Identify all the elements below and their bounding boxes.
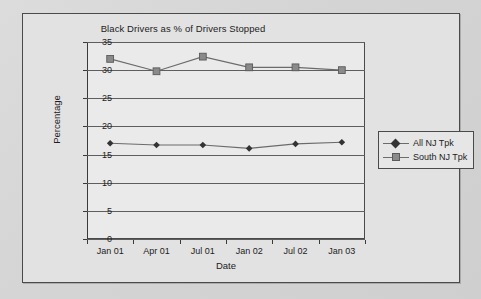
series-line-1 (110, 57, 342, 72)
data-point-0-3[interactable] (246, 145, 253, 152)
legend-label-0: All NJ Tpk (413, 138, 454, 148)
data-point-0-5[interactable] (339, 139, 346, 146)
x-tick-mark-5 (319, 240, 320, 244)
y-axis-title: Percentage (51, 60, 62, 180)
data-point-0-4[interactable] (292, 141, 299, 148)
x-tick-label-5: Jan 03 (312, 246, 372, 256)
data-point-1-3[interactable] (246, 64, 253, 71)
square-marker-icon (383, 151, 409, 163)
data-point-1-0[interactable] (107, 55, 114, 62)
chart-title: Black Drivers as % of Drivers Stopped (23, 23, 343, 34)
legend-label-1: South NJ Tpk (413, 152, 467, 162)
legend-item-1[interactable]: South NJ Tpk (383, 150, 467, 164)
series-line-0 (110, 142, 342, 148)
chart-legend: All NJ Tpk South NJ Tpk (378, 131, 474, 169)
diamond-marker-icon (383, 137, 409, 149)
chart-frame: Black Drivers as % of Drivers Stopped Pe… (22, 13, 460, 283)
data-point-0-0[interactable] (107, 140, 114, 147)
x-tick-mark-0 (87, 240, 88, 244)
data-point-1-2[interactable] (199, 53, 206, 60)
x-tick-mark-4 (272, 240, 273, 244)
x-axis-title: Date (87, 260, 365, 271)
data-point-0-1[interactable] (153, 142, 160, 149)
legend-item-0[interactable]: All NJ Tpk (383, 136, 467, 150)
data-point-0-2[interactable] (200, 142, 207, 149)
data-point-1-4[interactable] (292, 64, 299, 71)
x-tick-mark-3 (226, 240, 227, 244)
x-tick-mark-1 (133, 240, 134, 244)
chart-page: Black Drivers as % of Drivers Stopped Pe… (0, 0, 481, 299)
x-tick-mark-2 (180, 240, 181, 244)
data-series-layer (87, 42, 365, 239)
data-point-1-1[interactable] (153, 68, 160, 75)
x-tick-mark-6 (365, 240, 366, 244)
data-point-1-5[interactable] (338, 67, 345, 74)
